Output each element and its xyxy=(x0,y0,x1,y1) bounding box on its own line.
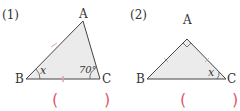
figures xyxy=(0,0,240,111)
problem-1-number: (1) xyxy=(2,8,19,22)
vertex-b-1: B xyxy=(15,72,24,86)
answer-open-2: ( xyxy=(180,90,186,109)
angle-c-label-1: 70° xyxy=(79,64,97,75)
vertex-c-2: C xyxy=(227,72,236,86)
vertex-b-2: B xyxy=(136,72,145,86)
answer-close-2: ) xyxy=(232,90,238,109)
answer-open-1: ( xyxy=(52,90,58,109)
problem-2-number: (2) xyxy=(130,8,147,22)
vertex-a-1: A xyxy=(79,7,88,21)
angle-c-label-2: x xyxy=(208,66,214,79)
tick-ab-1 xyxy=(51,43,57,47)
answer-close-1: ) xyxy=(104,90,110,109)
vertex-c-1: C xyxy=(102,72,111,86)
vertex-a-2: A xyxy=(183,13,192,27)
angle-b-label-1: x xyxy=(40,64,46,77)
